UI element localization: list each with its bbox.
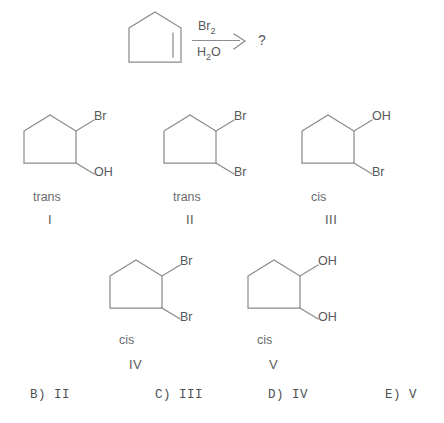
- structure-V-bottom-substituent: OH: [318, 311, 337, 324]
- answer-choice-b[interactable]: B) II: [30, 389, 70, 402]
- structure-III-bottom-substituent: Br: [372, 166, 385, 179]
- structure-V-skeleton: [246, 257, 324, 323]
- structure-V-stereo-label: cis: [257, 334, 272, 347]
- reagent-h2o-h: H: [197, 45, 206, 59]
- structure-II-roman-numeral: II: [186, 213, 194, 226]
- reagent-below-arrow: H2O: [197, 46, 221, 62]
- structure-III-stereo-label: cis: [311, 191, 326, 204]
- structure-I-skeleton: [22, 112, 100, 178]
- structure-II-stereo-label: trans: [173, 191, 201, 204]
- structure-IV-stereo-label: cis: [119, 334, 134, 347]
- structure-I-roman-numeral: I: [48, 213, 52, 226]
- structure-III-roman-numeral: III: [325, 213, 337, 226]
- answer-choice-d[interactable]: D) IV: [268, 389, 308, 402]
- answer-choice-c[interactable]: C) III: [155, 389, 203, 402]
- question-canvas: Br2 H2O ? Br OH trans I Br Br trans II O…: [0, 0, 444, 423]
- structure-I-top-substituent: Br: [94, 110, 107, 123]
- structure-III-skeleton: [300, 112, 378, 178]
- structure-I-bottom-substituent: OH: [94, 166, 113, 179]
- structure-V-top-substituent: OH: [318, 255, 337, 268]
- structure-II-skeleton: [162, 112, 240, 178]
- answer-choice-e[interactable]: E) V: [385, 389, 417, 402]
- reagent-above-arrow: Br2: [198, 20, 216, 36]
- structure-IV-skeleton: [108, 257, 186, 323]
- structure-IV-roman-numeral: IV: [129, 358, 142, 371]
- reagent-h2o-o: O: [211, 45, 221, 59]
- structure-II-bottom-substituent: Br: [234, 166, 247, 179]
- structure-I-stereo-label: trans: [33, 191, 61, 204]
- structure-III-top-substituent: OH: [372, 110, 391, 123]
- reagent-br2-text: Br: [198, 19, 211, 33]
- product-question-mark: ?: [258, 33, 266, 47]
- structure-II-top-substituent: Br: [234, 110, 247, 123]
- reaction-arrow-head: [232, 31, 248, 51]
- structure-V-roman-numeral: V: [269, 358, 278, 371]
- structure-IV-bottom-substituent: Br: [180, 311, 193, 324]
- reagent-br2-subscript: 2: [211, 26, 216, 36]
- structure-IV-top-substituent: Br: [180, 255, 193, 268]
- cyclopentene-substrate: [126, 10, 186, 66]
